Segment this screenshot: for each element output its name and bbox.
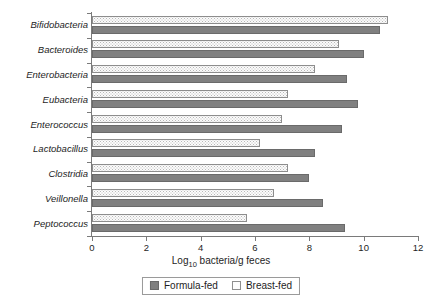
- category-label-bifidobacteria: Bifidobacteria: [2, 20, 88, 30]
- legend-item-formula-fed: Formula-fed: [150, 280, 218, 291]
- x-axis-title-subscript: 10: [188, 260, 196, 269]
- legend-swatch-formula-fed: [150, 281, 159, 290]
- bar-chart: BifidobacteriaBacteroidesEnterobacteriaE…: [0, 0, 442, 305]
- bar-breast-fed-veillonella: [92, 189, 274, 197]
- bar-breast-fed-clostridia: [92, 164, 288, 172]
- x-tick-6: [255, 236, 256, 241]
- category-label-clostridia: Clostridia: [2, 169, 88, 179]
- bar-breast-fed-eubacteria: [92, 90, 288, 98]
- x-axis-title-rest: bacteria/g feces: [197, 255, 270, 266]
- x-tick-label-8: 8: [294, 242, 324, 253]
- x-tick-0: [92, 236, 93, 241]
- legend-label-breast-fed: Breast-fed: [246, 280, 292, 291]
- bar-breast-fed-enterococcus: [92, 115, 282, 123]
- x-tick-12: [418, 236, 419, 241]
- bar-group-enterobacteria: [92, 63, 418, 88]
- category-label-bacteroides: Bacteroides: [2, 45, 88, 55]
- x-tick-label-10: 10: [349, 242, 379, 253]
- category-label-enterobacteria: Enterobacteria: [2, 70, 88, 80]
- category-label-peptococcus: Peptococcus: [2, 219, 88, 229]
- bar-group-lactobacillus: [92, 137, 418, 162]
- category-label-lactobacillus: Lactobacillus: [2, 144, 88, 154]
- category-label-veillonella: Veillonella: [2, 194, 88, 204]
- legend-swatch-breast-fed: [232, 281, 241, 290]
- x-tick-2: [146, 236, 147, 241]
- x-tick-4: [201, 236, 202, 241]
- bar-group-bifidobacteria: [92, 13, 418, 38]
- x-axis-title: Log10 bacteria/g feces: [0, 255, 442, 269]
- plot-area: [92, 13, 418, 236]
- bar-formula-fed-eubacteria: [92, 100, 358, 108]
- bar-formula-fed-peptococcus: [92, 224, 345, 232]
- legend-item-breast-fed: Breast-fed: [232, 280, 292, 291]
- bar-group-peptococcus: [92, 211, 418, 236]
- x-tick-10: [364, 236, 365, 241]
- bar-group-veillonella: [92, 186, 418, 211]
- bar-formula-fed-enterobacteria: [92, 75, 347, 83]
- bar-group-enterococcus: [92, 112, 418, 137]
- chart-legend: Formula-fed Breast-fed: [142, 277, 300, 295]
- bar-formula-fed-bifidobacteria: [92, 26, 380, 34]
- bar-breast-fed-bacteroides: [92, 40, 339, 48]
- x-tick-label-6: 6: [240, 242, 270, 253]
- legend-label-formula-fed: Formula-fed: [164, 280, 218, 291]
- x-axis-title-base: Log: [172, 255, 189, 266]
- bar-breast-fed-enterobacteria: [92, 65, 315, 73]
- bar-formula-fed-bacteroides: [92, 50, 364, 58]
- bar-group-bacteroides: [92, 38, 418, 63]
- x-tick-label-4: 4: [186, 242, 216, 253]
- x-tick-label-2: 2: [131, 242, 161, 253]
- bar-formula-fed-enterococcus: [92, 125, 342, 133]
- x-tick-8: [309, 236, 310, 241]
- x-tick-label-12: 12: [403, 242, 433, 253]
- category-labels: BifidobacteriaBacteroidesEnterobacteriaE…: [0, 13, 88, 236]
- bar-group-clostridia: [92, 162, 418, 187]
- bar-formula-fed-lactobacillus: [92, 149, 315, 157]
- bar-breast-fed-lactobacillus: [92, 139, 260, 147]
- bar-formula-fed-veillonella: [92, 199, 323, 207]
- category-label-eubacteria: Eubacteria: [2, 95, 88, 105]
- category-label-enterococcus: Enterococcus: [2, 120, 88, 130]
- bar-breast-fed-peptococcus: [92, 214, 247, 222]
- bar-breast-fed-bifidobacteria: [92, 16, 388, 24]
- bar-formula-fed-clostridia: [92, 174, 309, 182]
- bar-group-eubacteria: [92, 87, 418, 112]
- x-tick-label-0: 0: [77, 242, 107, 253]
